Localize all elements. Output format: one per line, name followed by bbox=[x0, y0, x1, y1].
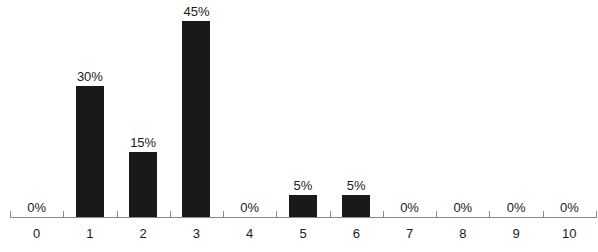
bar[interactable] bbox=[289, 195, 317, 217]
x-tick-label: 0 bbox=[10, 225, 63, 242]
bar-cell: 0% bbox=[223, 0, 276, 217]
bar-value-label: 0% bbox=[543, 200, 596, 215]
x-tick-label: 10 bbox=[543, 225, 596, 242]
x-tick-label: 2 bbox=[117, 225, 170, 242]
x-tick-label: 3 bbox=[170, 225, 223, 242]
x-axis-tick-mark bbox=[170, 211, 171, 218]
x-tick-label: 5 bbox=[276, 225, 329, 242]
x-axis-tick-mark bbox=[543, 211, 544, 218]
bar-value-label: 5% bbox=[276, 178, 329, 193]
bar[interactable] bbox=[129, 152, 157, 217]
x-tick-label: 8 bbox=[436, 225, 489, 242]
bar[interactable] bbox=[76, 86, 104, 217]
x-tick-label: 4 bbox=[223, 225, 276, 242]
plot-area: 0%30%15%45%0%5%5%0%0%0%0% bbox=[10, 0, 596, 217]
bar-value-label: 0% bbox=[436, 200, 489, 215]
bar-cell: 0% bbox=[436, 0, 489, 217]
x-axis-tick-mark bbox=[10, 211, 11, 218]
x-tick-label: 1 bbox=[63, 225, 116, 242]
bar-value-label: 0% bbox=[383, 200, 436, 215]
bar-value-label: 0% bbox=[10, 200, 63, 215]
bar-cell: 15% bbox=[117, 0, 170, 217]
bar-cell: 0% bbox=[489, 0, 542, 217]
bar-value-label: 30% bbox=[63, 69, 116, 84]
bar-value-label: 0% bbox=[223, 200, 276, 215]
bar-cell: 45% bbox=[170, 0, 223, 217]
bar-cell: 30% bbox=[63, 0, 116, 217]
x-axis-line bbox=[10, 217, 596, 218]
bar[interactable] bbox=[182, 21, 210, 217]
x-axis-tick-mark bbox=[63, 211, 64, 218]
x-axis-tick-labels: 012345678910 bbox=[10, 225, 596, 247]
x-axis-tick-mark bbox=[117, 211, 118, 218]
x-axis-tick-mark bbox=[489, 211, 490, 218]
x-axis-tick-mark bbox=[330, 211, 331, 218]
bar-value-label: 0% bbox=[490, 200, 543, 215]
bar-chart: 0%30%15%45%0%5%5%0%0%0%0% 012345678910 bbox=[0, 0, 598, 252]
bar-cell: 0% bbox=[543, 0, 596, 217]
x-tick-label: 9 bbox=[489, 225, 542, 242]
x-axis-tick-mark bbox=[383, 211, 384, 218]
x-axis-tick-mark bbox=[596, 211, 597, 218]
bar-cell: 0% bbox=[10, 0, 63, 217]
bar-value-label: 45% bbox=[170, 4, 223, 19]
x-tick-label: 6 bbox=[330, 225, 383, 242]
bar-cell: 5% bbox=[330, 0, 383, 217]
bar-value-label: 15% bbox=[117, 135, 170, 150]
bar-value-label: 5% bbox=[330, 178, 383, 193]
bar-cell: 0% bbox=[383, 0, 436, 217]
x-axis-tick-mark bbox=[276, 211, 277, 218]
x-axis-tick-mark bbox=[436, 211, 437, 218]
x-axis-tick-mark bbox=[223, 211, 224, 218]
bar-cell: 5% bbox=[276, 0, 329, 217]
bar[interactable] bbox=[342, 195, 370, 217]
x-tick-label: 7 bbox=[383, 225, 436, 242]
